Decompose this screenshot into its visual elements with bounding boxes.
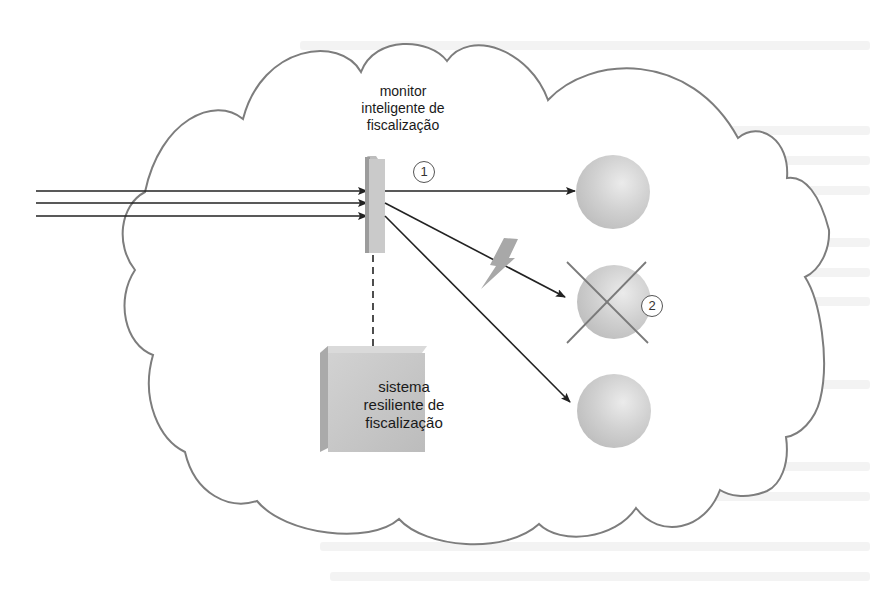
target-node-top	[576, 155, 650, 229]
monitor-label-line: monitor	[343, 83, 463, 100]
system-label-line: sistema	[343, 378, 465, 396]
monitor-label-line: fiscalização	[343, 117, 463, 134]
resilient-system-label: sistema resiliente de fiscalização	[343, 378, 465, 432]
monitor-label: monitor inteligente de fiscalização	[343, 83, 463, 134]
diagram-canvas: monitor inteligente de fiscalização 1 2 …	[0, 0, 871, 597]
system-label-line: resiliente de	[343, 396, 465, 414]
cloud-outline	[123, 44, 829, 544]
target-node-failed	[577, 265, 651, 339]
monitor-device	[365, 156, 385, 253]
step-badge-1: 1	[413, 161, 435, 183]
monitor-label-line: inteligente de	[343, 100, 463, 117]
target-node-bottom	[577, 374, 651, 448]
system-label-line: fiscalização	[343, 414, 465, 432]
step-badge-2: 2	[641, 295, 663, 317]
